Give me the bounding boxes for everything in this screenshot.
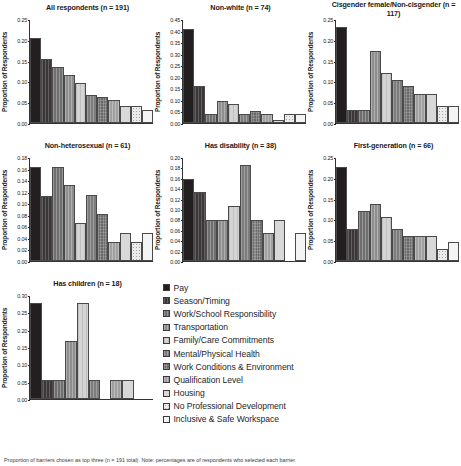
y-axis-ticks: 0.000.050.100.150.200.25 bbox=[10, 20, 29, 124]
legend-swatch-icon bbox=[163, 310, 170, 317]
y-tick-label: 0.25 bbox=[323, 17, 333, 23]
y-tick-label: 0.08 bbox=[17, 213, 27, 219]
figure-panel-grid: All respondents (n = 191)Proportion of R… bbox=[0, 0, 461, 466]
bar-family-care-commitments bbox=[75, 223, 86, 261]
y-tick-label: 0.00 bbox=[17, 259, 27, 265]
y-tick-label: 0.15 bbox=[170, 86, 180, 92]
bar-family-care-commitments bbox=[228, 206, 239, 261]
bar-work-school-responsibility bbox=[358, 211, 369, 261]
y-tick-label: 0.00 bbox=[323, 259, 333, 265]
panel-non-heterosexual: Non-heterosexual (n = 61)Proportion of R… bbox=[0, 138, 153, 276]
legend-item: Season/Timing bbox=[163, 294, 363, 307]
bar-transportation bbox=[65, 341, 77, 399]
bar-inclusive-safe-workspace bbox=[295, 233, 306, 261]
y-tick-label: 0.15 bbox=[17, 345, 27, 351]
bar-season-timing bbox=[42, 380, 54, 399]
bar-mental-physical-health bbox=[240, 165, 251, 261]
y-tick-label: 0.10 bbox=[323, 217, 333, 223]
plot-area: Proportion of Respondents0.000.050.100.1… bbox=[306, 20, 459, 132]
bar-no-professional-development bbox=[131, 242, 142, 261]
bar-pay bbox=[336, 167, 347, 261]
y-tick-label: 0.10 bbox=[323, 79, 333, 85]
y-tick-label: 0.14 bbox=[170, 186, 180, 192]
bar-family-care-commitments bbox=[228, 104, 239, 123]
bar-qualification-level bbox=[414, 236, 425, 261]
y-tick-label: 0.40 bbox=[170, 29, 180, 35]
panel-has-children: Has children (n = 18)Proportion of Respo… bbox=[0, 276, 153, 414]
y-tick-label: 0.20 bbox=[323, 38, 333, 44]
axes bbox=[335, 158, 459, 262]
legend-label: Qualification Level bbox=[174, 375, 243, 385]
bar-season-timing bbox=[41, 59, 52, 123]
y-tick-label: 0.25 bbox=[170, 63, 180, 69]
bar-work-school-responsibility bbox=[52, 67, 63, 123]
y-tick-label: 0.45 bbox=[170, 17, 180, 23]
y-tick-label: 0.00 bbox=[170, 121, 180, 127]
legend-swatch-icon bbox=[163, 416, 170, 423]
y-axis-ticks: 0.000.050.100.150.200.25 bbox=[316, 158, 335, 262]
bar-qualification-level bbox=[414, 94, 425, 123]
legend-swatch-icon bbox=[163, 390, 170, 397]
y-tick-label: 0.25 bbox=[323, 155, 333, 161]
y-tick-label: 0.12 bbox=[17, 190, 27, 196]
bar-season-timing bbox=[194, 86, 205, 123]
bar-housing bbox=[426, 236, 437, 261]
plot-area: Proportion of Respondents0.000.050.100.1… bbox=[306, 158, 459, 270]
legend-label: Housing bbox=[174, 388, 205, 398]
legend-swatch-icon bbox=[163, 376, 170, 383]
bar-pay bbox=[30, 38, 41, 123]
legend-label: Inclusive & Safe Workspace bbox=[174, 414, 280, 424]
y-tick-label: 0.20 bbox=[17, 328, 27, 334]
y-tick-label: 0.05 bbox=[170, 109, 180, 115]
bar-no-professional-development bbox=[437, 249, 448, 261]
y-axis-ticks: 0.000.050.100.150.200.25 bbox=[316, 20, 335, 124]
panel-has-disability: Has disability (n = 38)Proportion of Res… bbox=[153, 138, 306, 276]
y-tick-label: 0.14 bbox=[17, 178, 27, 184]
bar-qualification-level bbox=[261, 114, 272, 123]
bar-inclusive-safe-workspace bbox=[448, 242, 459, 261]
legend-label: No Professional Development bbox=[174, 401, 286, 411]
y-tick-label: 0.18 bbox=[17, 155, 27, 161]
bar-housing bbox=[426, 94, 437, 123]
bar-mental-physical-health bbox=[392, 229, 403, 261]
bar-pay bbox=[30, 303, 42, 399]
y-tick-label: 0.35 bbox=[170, 40, 180, 46]
bar-housing bbox=[274, 220, 285, 261]
bar-housing bbox=[120, 106, 131, 123]
bar-family-care-commitments bbox=[77, 303, 89, 399]
y-axis-label: Proportion of Respondents bbox=[0, 296, 10, 400]
y-tick-label: 0.15 bbox=[323, 197, 333, 203]
bar-qualification-level bbox=[108, 100, 119, 123]
y-tick-label: 0.15 bbox=[323, 59, 333, 65]
y-axis-ticks: 0.000.020.040.060.080.100.120.140.160.18 bbox=[10, 158, 29, 262]
axes bbox=[182, 158, 306, 262]
y-axis-ticks: 0.000.050.100.150.200.250.300.350.400.45 bbox=[163, 20, 182, 124]
bar-work-school-responsibility bbox=[53, 380, 65, 399]
y-tick-label: 0.10 bbox=[170, 207, 180, 213]
axes bbox=[29, 158, 153, 262]
y-axis-ticks: 0.000.050.100.150.200.250.30 bbox=[10, 296, 29, 400]
bar-transportation bbox=[370, 51, 381, 123]
bar-mental-physical-health bbox=[392, 80, 403, 123]
bar-work-conditions-environment bbox=[97, 214, 108, 261]
legend-item: No Professional Development bbox=[163, 400, 363, 413]
bar-pay bbox=[30, 167, 41, 261]
bar-transportation bbox=[64, 185, 75, 261]
bar-mental-physical-health bbox=[89, 380, 101, 399]
bar-housing bbox=[122, 380, 134, 399]
y-tick-label: 0.20 bbox=[170, 155, 180, 161]
axes bbox=[29, 20, 153, 124]
legend-swatch-icon bbox=[163, 284, 170, 291]
y-tick-label: 0.15 bbox=[17, 59, 27, 65]
bar-qualification-level bbox=[108, 242, 119, 261]
bar-season-timing bbox=[41, 196, 52, 261]
y-tick-label: 0.20 bbox=[170, 75, 180, 81]
y-tick-label: 0.00 bbox=[17, 121, 27, 127]
y-axis-label: Proportion of Respondents bbox=[0, 20, 10, 124]
bar-work-conditions-environment bbox=[403, 86, 414, 123]
bar-work-conditions-environment bbox=[97, 97, 108, 123]
bar-group bbox=[183, 20, 306, 123]
y-tick-label: 0.16 bbox=[17, 167, 27, 173]
bar-no-professional-development bbox=[437, 106, 448, 123]
plot-area: Proportion of Respondents0.000.050.100.1… bbox=[0, 20, 153, 132]
